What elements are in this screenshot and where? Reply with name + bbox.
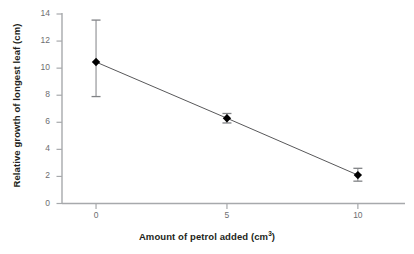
y-tick-label: 6 [20, 116, 50, 126]
x-tick-label: 0 [81, 210, 111, 220]
data-point-marker [92, 58, 100, 66]
data-point-marker [354, 171, 362, 179]
y-tick-label: 10 [20, 62, 50, 72]
x-tick-label: 5 [212, 210, 242, 220]
x-axis-title-tail: ) [272, 231, 275, 242]
y-tick-label: 2 [20, 170, 50, 180]
y-tick-label: 4 [20, 143, 50, 153]
data-point-marker [223, 114, 231, 122]
x-tick-label: 10 [343, 210, 373, 220]
y-tick-label: 14 [20, 8, 50, 18]
y-tick-label: 8 [20, 89, 50, 99]
data-point-markers [92, 58, 362, 179]
x-axis-title-main: Amount of petrol added (cm [139, 231, 268, 242]
error-bars [92, 20, 363, 181]
y-axis-ticks [57, 14, 63, 204]
y-tick-label: 0 [20, 198, 50, 208]
y-tick-label: 12 [20, 35, 50, 45]
y-axis-title: Relative growth of longest leaf (cm) [11, 6, 22, 206]
chart-container: 02468101214 0510 Relative growth of long… [0, 0, 414, 254]
x-axis-ticks [96, 204, 358, 210]
x-axis-title: Amount of petrol added (cm3) [0, 231, 414, 242]
